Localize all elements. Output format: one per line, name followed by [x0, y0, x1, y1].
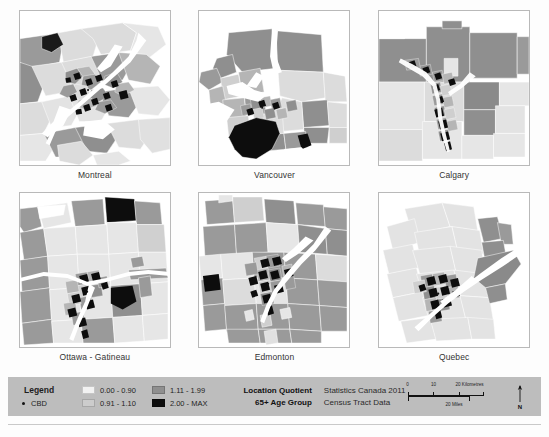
map-grid: Montreal	[8, 10, 541, 372]
map-caption-quebec: Quebec	[439, 352, 469, 362]
legend-source: Statistics Canada 2011 Census Tract Data	[324, 385, 406, 408]
legend-bottom-rule	[8, 424, 541, 425]
legend-class-item: 1.11 - 1.99	[152, 386, 208, 395]
scale-bar-tick-labels: 0 10 20 Kilometres	[406, 382, 502, 391]
map-caption-calgary: Calgary	[439, 170, 469, 180]
cbd-point-icon	[22, 402, 25, 405]
legend-class-label-0: 0.00 - 0.90	[100, 386, 136, 395]
legend-class-label-1: 1.11 - 1.99	[170, 386, 205, 395]
map-panel-quebec[interactable]	[378, 192, 530, 348]
map-panel-montreal[interactable]	[19, 10, 171, 166]
map-panel-edmonton[interactable]	[198, 192, 350, 348]
map-caption-montreal: Montreal	[78, 170, 112, 180]
map-caption-vancouver: Vancouver	[254, 170, 295, 180]
figure-container: Montreal	[0, 0, 549, 437]
scale-tick-0: 0	[406, 382, 409, 387]
legend-class-item: 0.00 - 0.90	[82, 386, 136, 395]
map-panel-vancouver[interactable]	[198, 10, 350, 166]
scale-bar-miles-label: 20 Miles	[446, 402, 463, 407]
legend-class-list: 0.00 - 0.90 1.11 - 1.99 0.91 - 1.10 2.00…	[82, 386, 207, 408]
map-cell-montreal: Montreal	[8, 10, 182, 190]
map-cell-edmonton: Edmonton	[188, 192, 362, 372]
legend-class-item: 2.00 - MAX	[152, 399, 208, 408]
edmonton-choropleth	[199, 193, 349, 347]
legend-class-label-3: 2.00 - MAX	[170, 399, 208, 408]
map-cell-ottawa: Ottawa - Gatineau	[8, 192, 182, 372]
map-caption-edmonton: Edmonton	[255, 352, 295, 362]
north-arrow: N	[509, 384, 531, 410]
legend-swatch-2	[82, 399, 95, 407]
map-cell-quebec: Quebec	[367, 192, 541, 372]
legend-headline: Location Quotient 65+ Age Group	[243, 385, 311, 408]
legend-left-block: Legend CBD	[8, 385, 76, 408]
map-panel-ottawa[interactable]	[19, 192, 171, 348]
legend-headline-line2: 65+ Age Group	[243, 397, 311, 409]
montreal-choropleth	[20, 11, 170, 165]
legend-title: Legend	[20, 385, 76, 395]
map-panel-calgary[interactable]	[378, 10, 530, 166]
scale-bar: 0 10 20 Kilometres 20 Miles	[406, 382, 503, 412]
calgary-choropleth	[379, 11, 529, 165]
vancouver-choropleth	[199, 11, 349, 165]
legend-class-item: 0.91 - 1.10	[82, 399, 136, 408]
legend-class-label-2: 0.91 - 1.10	[100, 399, 136, 408]
legend-source-line2: Census Tract Data	[324, 397, 406, 409]
scale-bar-miles-line	[408, 396, 470, 401]
north-arrow-icon	[515, 384, 525, 404]
legend-cbd-label: CBD	[31, 399, 47, 408]
north-arrow-label: N	[518, 404, 522, 410]
legend-swatch-1	[152, 386, 165, 394]
legend-swatch-3	[152, 399, 165, 407]
map-caption-ottawa: Ottawa - Gatineau	[59, 352, 130, 362]
legend-bar: Legend CBD 0.00 - 0.90 1.11 - 1.99 0.91 …	[8, 377, 541, 416]
scale-tick-2: 20 Kilometres	[455, 382, 483, 387]
ottawa-choropleth	[20, 193, 170, 347]
quebec-choropleth	[379, 193, 529, 347]
map-cell-calgary: Calgary	[367, 10, 541, 190]
scale-tick-1: 10	[431, 382, 436, 387]
map-cell-vancouver: Vancouver	[188, 10, 362, 190]
legend-cbd-entry: CBD	[20, 399, 76, 408]
legend-source-line1: Statistics Canada 2011	[324, 385, 406, 397]
legend-headline-line1: Location Quotient	[243, 385, 311, 397]
legend-swatch-0	[82, 386, 95, 394]
